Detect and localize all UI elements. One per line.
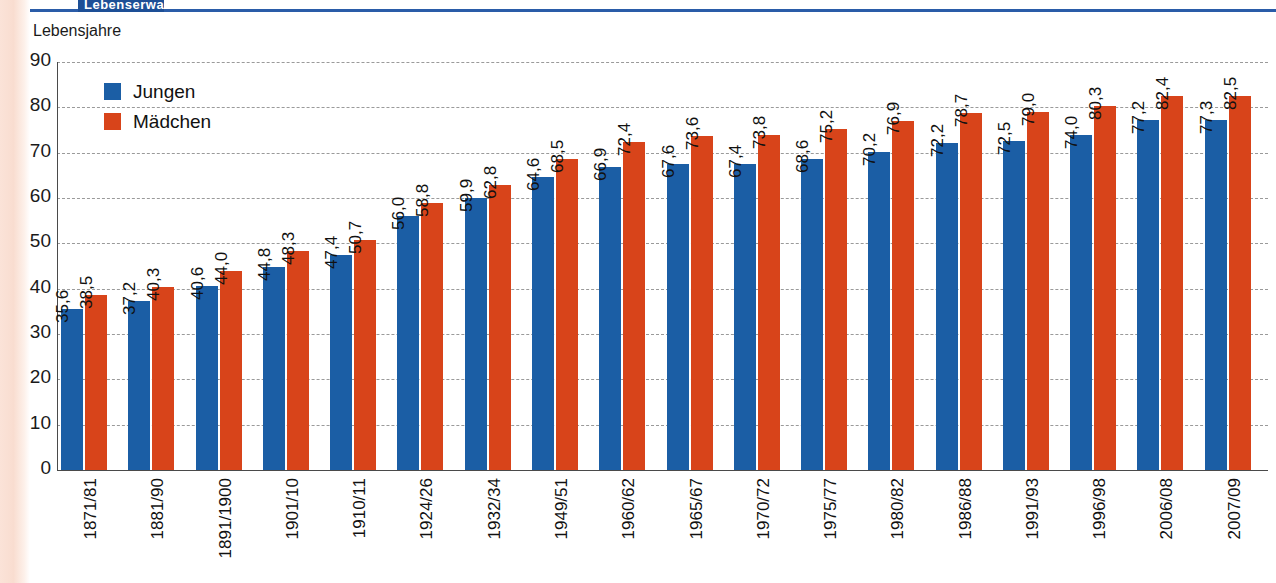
bar-value-label: 67,4 — [726, 145, 746, 178]
bar-group: 74,080,3 — [1066, 62, 1133, 470]
legend-item[interactable]: Mädchen — [104, 108, 211, 135]
bar-jungen — [734, 164, 756, 470]
y-axis-title: Lebensjahre — [33, 22, 121, 40]
square-swatch-blue — [104, 83, 121, 100]
header-chip: Lebenserwartung — [78, 0, 164, 12]
x-category-label: 1871/81 — [81, 478, 101, 539]
bar-jungen — [196, 286, 218, 470]
bar-madchen — [1094, 106, 1116, 470]
bar-value-label: 72,4 — [615, 123, 635, 156]
bar-madchen — [85, 295, 107, 470]
y-tick-label: 70 — [5, 140, 51, 162]
bar-value-label: 50,7 — [346, 221, 366, 254]
bar-value-label: 75,2 — [817, 110, 837, 143]
x-category-label: 1965/67 — [687, 478, 707, 539]
bar-madchen — [287, 251, 309, 470]
y-tick-label: 50 — [5, 230, 51, 252]
bar-value-label: 73,8 — [750, 116, 770, 149]
bar-value-label: 56,0 — [389, 197, 409, 230]
x-category-label: 1910/11 — [350, 478, 370, 538]
bar-value-label: 66,9 — [591, 148, 611, 181]
bar-madchen — [960, 113, 982, 470]
bar-value-label: 62,8 — [481, 166, 501, 199]
chart-legend: JungenMädchen — [104, 78, 211, 138]
x-category-label: 2006/08 — [1157, 478, 1177, 539]
bar-value-label: 59,9 — [457, 179, 477, 212]
y-tick-label: 20 — [5, 366, 51, 388]
bar-value-label: 76,9 — [884, 102, 904, 135]
bar-group: 67,473,8 — [730, 62, 797, 470]
bar-group: 64,668,5 — [528, 62, 595, 470]
bar-jungen — [1205, 120, 1227, 470]
x-axis-category-labels: 1871/811881/901891/19001901/101910/11192… — [57, 470, 1268, 583]
x-category-label: 1881/90 — [148, 478, 168, 539]
bar-value-label: 77,3 — [1197, 100, 1217, 133]
bar-group: 72,579,0 — [999, 62, 1066, 470]
y-tick-label: 0 — [5, 457, 51, 479]
bar-value-label: 37,2 — [120, 282, 140, 315]
bar-value-label: 44,0 — [212, 251, 232, 284]
bar-jungen — [868, 152, 890, 470]
bar-jungen — [599, 167, 621, 470]
x-category-label: 1960/62 — [619, 478, 639, 539]
bar-value-label: 72,2 — [928, 124, 948, 157]
bar-value-label: 68,5 — [548, 140, 568, 173]
bar-group: 77,282,4 — [1133, 62, 1200, 470]
x-category-label: 1980/82 — [888, 478, 908, 539]
header-rule — [30, 9, 1276, 12]
bar-value-label: 70,2 — [860, 133, 880, 166]
bar-value-label: 58,8 — [413, 184, 433, 217]
bar-group: 56,058,8 — [393, 62, 460, 470]
bar-value-label: 44,8 — [255, 248, 275, 281]
legend-item-label: Mädchen — [133, 111, 211, 133]
bar-madchen — [152, 287, 174, 470]
x-category-label: 1996/98 — [1090, 478, 1110, 539]
bar-jungen — [397, 216, 419, 470]
bar-value-label: 82,5 — [1221, 77, 1241, 110]
x-category-label: 1924/26 — [417, 478, 437, 539]
bar-jungen — [801, 159, 823, 470]
bar-madchen — [489, 185, 511, 470]
x-category-label: 1970/72 — [754, 478, 774, 539]
y-tick-label: 10 — [5, 412, 51, 434]
bar-group: 67,673,6 — [663, 62, 730, 470]
bar-madchen — [220, 271, 242, 470]
legend-item[interactable]: Jungen — [104, 78, 211, 105]
bar-value-label: 68,6 — [793, 140, 813, 173]
bar-madchen — [623, 142, 645, 470]
bar-group: 44,848,3 — [259, 62, 326, 470]
bar-value-label: 48,3 — [279, 232, 299, 265]
bar-value-label: 78,7 — [952, 94, 972, 127]
bar-group: 47,450,7 — [326, 62, 393, 470]
bar-value-label: 64,6 — [524, 158, 544, 191]
bar-jungen — [465, 198, 487, 470]
x-category-label: 1975/77 — [821, 478, 841, 539]
bar-group: 66,972,4 — [595, 62, 662, 470]
chart-page: Lebenserwartung Lebensjahre 010203040506… — [0, 0, 1276, 583]
bar-madchen — [1229, 96, 1251, 470]
bar-jungen — [667, 164, 689, 470]
bar-value-label: 35,6 — [53, 290, 73, 323]
bar-madchen — [354, 240, 376, 470]
bar-value-label: 73,6 — [683, 117, 703, 150]
bar-value-label: 67,6 — [659, 144, 679, 177]
square-swatch-red — [104, 113, 121, 130]
y-tick-label: 60 — [5, 185, 51, 207]
bar-group: 70,276,9 — [864, 62, 931, 470]
bar-madchen — [1161, 96, 1183, 470]
y-tick-label: 30 — [5, 321, 51, 343]
bar-group: 59,962,8 — [461, 62, 528, 470]
bar-madchen — [758, 135, 780, 470]
bar-jungen — [330, 255, 352, 470]
bar-jungen — [1137, 120, 1159, 470]
bar-madchen — [1027, 112, 1049, 470]
bar-jungen — [61, 309, 83, 470]
bar-jungen — [128, 301, 150, 470]
bar-jungen — [1003, 141, 1025, 470]
x-category-label: 2007/09 — [1225, 478, 1245, 539]
x-category-label: 1901/10 — [283, 478, 303, 539]
bar-jungen — [532, 177, 554, 470]
bar-value-label: 47,4 — [322, 236, 342, 269]
bar-value-label: 82,4 — [1153, 77, 1173, 110]
bar-value-label: 40,6 — [188, 267, 208, 300]
